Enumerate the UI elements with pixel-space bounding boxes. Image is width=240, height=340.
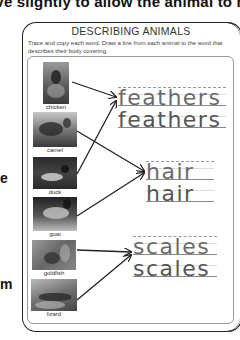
goldfish-photo: [32, 240, 76, 270]
lizard-photo: [31, 279, 77, 311]
copy-row[interactable]: scales: [133, 255, 217, 277]
top-caption: ove slightly to allow the animal to move: [0, 0, 240, 10]
animal-label: duck: [33, 189, 77, 196]
animal-label: camel: [33, 147, 77, 154]
worksheet-instructions: Trace and copy each word. Draw a line fr…: [28, 39, 233, 55]
duck-photo: [33, 157, 77, 189]
side-letter: m: [0, 276, 12, 292]
worksheet-title: DESCRIBING ANIMALS: [22, 25, 240, 37]
animal-duck: duck: [33, 157, 77, 196]
animal-chicken: chicken: [43, 62, 69, 111]
animal-label: goat: [33, 231, 77, 238]
animal-label: chicken: [43, 104, 69, 111]
copy-word: scales: [133, 258, 210, 280]
goat-photo: [33, 197, 77, 231]
trace-row[interactable]: hair: [146, 158, 214, 180]
animal-label: lizard: [31, 311, 77, 318]
camel-photo: [33, 112, 77, 147]
animal-goldfish: goldfish: [32, 240, 76, 277]
copy-row[interactable]: feathers: [118, 106, 226, 128]
side-letter: e: [0, 170, 8, 186]
trace-row[interactable]: feathers: [118, 84, 226, 106]
copy-word: hair: [146, 183, 195, 205]
word-block-scales: scales scales: [133, 233, 217, 277]
animal-lizard: lizard: [31, 279, 77, 318]
animal-camel: camel: [33, 112, 77, 154]
animal-goat: goat: [33, 197, 77, 238]
copy-word: feathers: [118, 109, 221, 131]
animal-label: goldfish: [32, 270, 76, 277]
trace-row[interactable]: scales: [133, 233, 217, 255]
copy-row[interactable]: hair: [146, 180, 214, 202]
chicken-photo: [43, 62, 69, 104]
word-block-hair: hair hair: [146, 158, 214, 202]
word-block-feathers: feathers feathers: [118, 84, 226, 128]
